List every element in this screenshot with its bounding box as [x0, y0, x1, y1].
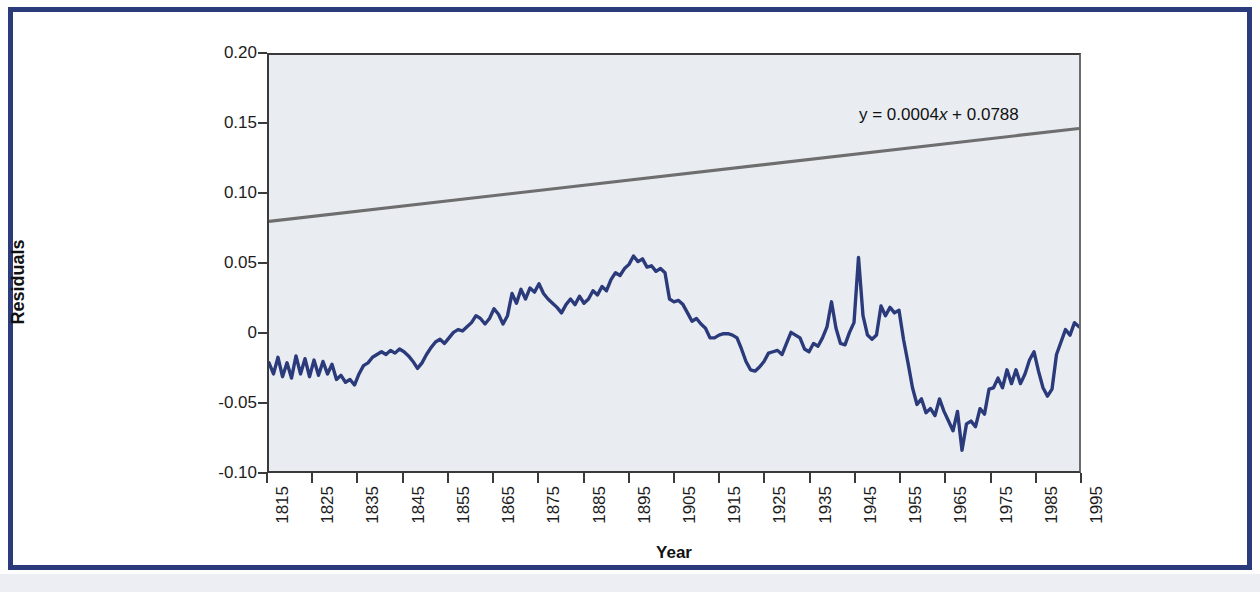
x-axis-ticks	[267, 473, 1081, 483]
x-tick-mark	[1080, 473, 1082, 483]
x-tick-mark	[402, 473, 404, 483]
y-tick-mark	[258, 262, 267, 264]
y-axis-ticks	[258, 53, 267, 473]
x-tick-label: 1875	[544, 486, 564, 524]
y-tick-label: 0.15	[224, 113, 257, 133]
y-tick-mark	[258, 402, 267, 404]
x-tick-label: 1825	[318, 486, 338, 524]
x-tick-label: 1985	[1042, 486, 1062, 524]
y-tick-label: 0.20	[224, 43, 257, 63]
x-tick-mark	[447, 473, 449, 483]
x-tick-mark	[763, 473, 765, 483]
x-axis-title: Year	[267, 543, 1081, 563]
x-tick-mark	[492, 473, 494, 483]
y-axis-tick-labels: -0.10-0.0500.050.100.150.20	[153, 53, 257, 473]
trendline-path	[269, 128, 1079, 221]
x-tick-label: 1975	[997, 486, 1017, 524]
x-tick-mark	[628, 473, 630, 483]
x-tick-mark	[718, 473, 720, 483]
x-tick-mark	[583, 473, 585, 483]
x-tick-mark	[854, 473, 856, 483]
y-tick-label: 0.05	[224, 253, 257, 273]
x-tick-label: 1815	[273, 486, 293, 524]
x-tick-mark	[673, 473, 675, 483]
x-tick-label: 1855	[454, 486, 474, 524]
x-tick-mark	[1035, 473, 1037, 483]
y-tick-label: 0	[248, 323, 257, 343]
equation-suffix: + 0.0788	[947, 105, 1018, 124]
x-tick-label: 1845	[409, 486, 429, 524]
figure-page: Residuals -0.10-0.0500.050.100.150.20 y …	[0, 0, 1260, 592]
x-tick-mark	[356, 473, 358, 483]
x-tick-mark	[537, 473, 539, 483]
x-tick-mark	[311, 473, 313, 483]
x-tick-label: 1925	[770, 486, 790, 524]
x-tick-label: 1835	[363, 486, 383, 524]
page-bottom-strip	[0, 574, 1260, 592]
x-tick-label: 1905	[680, 486, 700, 524]
x-tick-mark	[809, 473, 811, 483]
y-tick-mark	[258, 52, 267, 54]
x-tick-label: 1995	[1087, 486, 1107, 524]
x-tick-mark	[266, 473, 268, 483]
chart-figure: Residuals -0.10-0.0500.050.100.150.20 y …	[13, 12, 1257, 575]
x-tick-mark	[944, 473, 946, 483]
x-tick-label: 1965	[951, 486, 971, 524]
equation-prefix: y = 0.0004	[859, 105, 939, 124]
x-tick-label: 1915	[725, 486, 745, 524]
x-axis-tick-labels: 1815182518351845185518651875188518951905…	[267, 486, 1081, 546]
y-tick-mark	[258, 192, 267, 194]
x-tick-label: 1885	[590, 486, 610, 524]
residuals-series-path	[269, 256, 1079, 450]
x-tick-mark	[990, 473, 992, 483]
y-tick-mark	[258, 332, 267, 334]
y-tick-label: -0.05	[218, 393, 257, 413]
y-tick-label: -0.10	[218, 463, 257, 483]
y-tick-label: 0.10	[224, 183, 257, 203]
x-tick-label: 1865	[499, 486, 519, 524]
figure-border-frame: Residuals -0.10-0.0500.050.100.150.20 y …	[8, 7, 1252, 570]
trendline-equation-label: y = 0.0004x + 0.0788	[859, 105, 1019, 125]
y-axis-title: Residuals	[8, 182, 29, 382]
x-tick-label: 1935	[816, 486, 836, 524]
x-tick-label: 1955	[906, 486, 926, 524]
x-tick-label: 1895	[635, 486, 655, 524]
x-tick-label: 1945	[861, 486, 881, 524]
y-tick-mark	[258, 122, 267, 124]
x-tick-mark	[899, 473, 901, 483]
